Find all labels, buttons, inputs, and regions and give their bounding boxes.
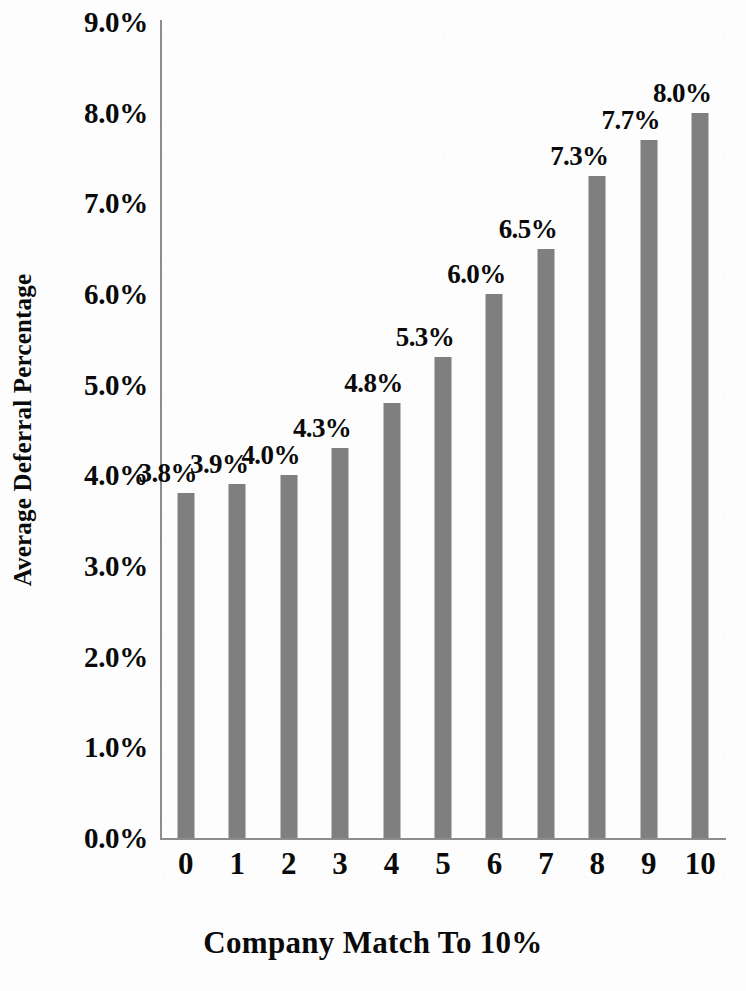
y-axis-title-label: Average Deferral Percentage bbox=[9, 274, 37, 587]
y-axis-tick-label: 8.0% bbox=[84, 96, 148, 129]
bar-slot: 4.8% bbox=[366, 22, 417, 838]
bar[interactable] bbox=[486, 294, 503, 838]
bar-value-label: 4.8% bbox=[344, 370, 402, 397]
x-axis-tick-label: 7 bbox=[538, 846, 554, 882]
y-axis-title: Average Deferral Percentage bbox=[0, 0, 46, 860]
bar[interactable] bbox=[229, 484, 246, 838]
x-axis-tick-label: 8 bbox=[590, 846, 606, 882]
x-axis-tick-label: 3 bbox=[332, 846, 348, 882]
bar-value-label: 4.3% bbox=[293, 415, 351, 442]
bar-slot: 7.3% bbox=[572, 22, 623, 838]
bar-value-label: 7.7% bbox=[602, 107, 660, 134]
bar-value-label: 3.9% bbox=[190, 451, 248, 478]
bar-slot: 3.9% bbox=[211, 22, 262, 838]
bar-slot: 8.0% bbox=[675, 22, 726, 838]
x-axis-tick-labels: 012345678910 bbox=[160, 846, 726, 906]
x-axis-tick-label: 2 bbox=[281, 846, 297, 882]
y-axis-tick-label: 0.0% bbox=[84, 822, 148, 855]
bar[interactable] bbox=[332, 448, 349, 838]
x-axis-tick-label: 10 bbox=[685, 846, 716, 882]
bar-value-label: 5.3% bbox=[396, 324, 454, 351]
plot-area: 3.8%3.9%4.0%4.3%4.8%5.3%6.0%6.5%7.3%7.7%… bbox=[160, 22, 726, 838]
x-axis-tick-label: 6 bbox=[487, 846, 503, 882]
bar-value-label: 6.0% bbox=[447, 261, 505, 288]
x-axis-tick-label: 4 bbox=[384, 846, 400, 882]
bar[interactable] bbox=[383, 403, 400, 838]
bar[interactable] bbox=[640, 140, 657, 838]
y-axis-tick-label: 2.0% bbox=[84, 640, 148, 673]
bar-value-label: 3.8% bbox=[139, 460, 197, 487]
bar[interactable] bbox=[434, 357, 451, 838]
bar[interactable] bbox=[692, 113, 709, 838]
x-axis-tick-label: 0 bbox=[178, 846, 194, 882]
chart-page: Average Deferral Percentage 0.0%1.0%2.0%… bbox=[0, 0, 746, 991]
y-axis-tick-label: 3.0% bbox=[84, 550, 148, 583]
bar-slot: 6.0% bbox=[469, 22, 520, 838]
y-axis-tick-label: 9.0% bbox=[84, 6, 148, 39]
y-axis-tick-labels: 0.0%1.0%2.0%3.0%4.0%5.0%6.0%7.0%8.0%9.0% bbox=[44, 0, 158, 860]
bar-value-label: 4.0% bbox=[241, 442, 299, 469]
y-axis-tick-label: 6.0% bbox=[84, 278, 148, 311]
bar-value-label: 8.0% bbox=[653, 80, 711, 107]
x-axis-tick-label: 5 bbox=[435, 846, 451, 882]
bar-slot: 7.7% bbox=[623, 22, 674, 838]
bar[interactable] bbox=[177, 493, 194, 838]
bar-value-label: 6.5% bbox=[499, 216, 557, 243]
y-axis-tick-label: 7.0% bbox=[84, 187, 148, 220]
bar-slot: 3.8% bbox=[160, 22, 211, 838]
x-axis-line bbox=[160, 838, 726, 840]
x-axis-title: Company Match To 10% bbox=[0, 925, 746, 961]
x-axis-tick-label: 1 bbox=[229, 846, 245, 882]
bar-slot: 5.3% bbox=[417, 22, 468, 838]
x-axis-tick-label: 9 bbox=[641, 846, 657, 882]
bar[interactable] bbox=[589, 176, 606, 838]
y-axis-tick-label: 1.0% bbox=[84, 731, 148, 764]
y-axis-tick-label: 5.0% bbox=[84, 368, 148, 401]
bar[interactable] bbox=[537, 249, 554, 838]
bar-value-label: 7.3% bbox=[550, 143, 608, 170]
bar-slot: 4.3% bbox=[314, 22, 365, 838]
bar[interactable] bbox=[280, 475, 297, 838]
